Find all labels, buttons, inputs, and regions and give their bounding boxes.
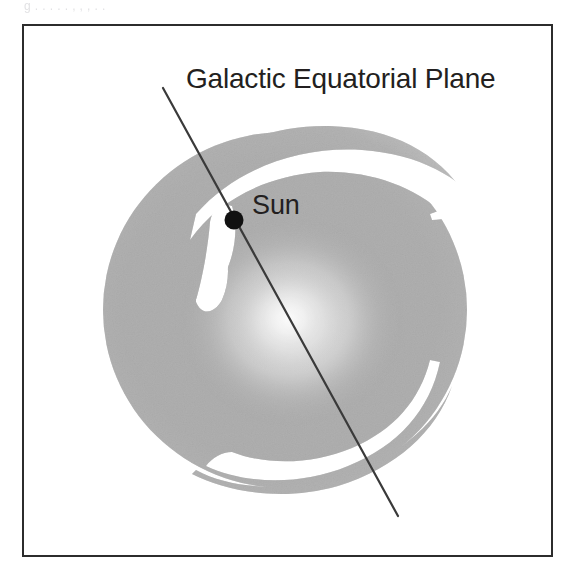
galactic-equatorial-plane-label: Galactic Equatorial Plane bbox=[186, 63, 495, 95]
sun-label: Sun bbox=[252, 190, 300, 220]
sun-marker-dot bbox=[225, 211, 244, 230]
figure-root: g . . . . . , , , . . bbox=[0, 0, 563, 574]
